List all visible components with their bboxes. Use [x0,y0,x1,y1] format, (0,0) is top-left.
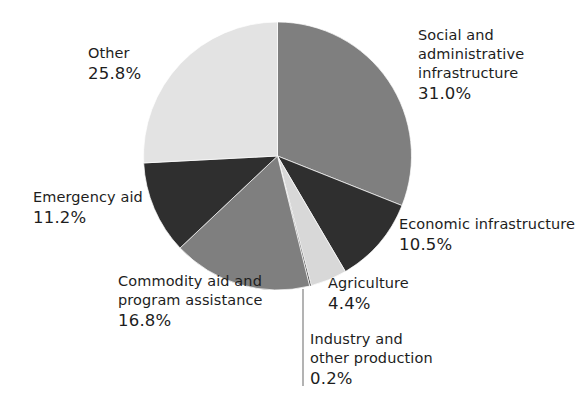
slice-label-text-line1: Emergency aid [33,188,143,207]
slice-value-commodity: 16.8% [118,311,263,330]
slice-label-text-line1: Commodity aid and [118,272,263,291]
slice-value-agriculture: 4.4% [328,294,409,313]
pie-slices-group [143,22,411,290]
slice-label-emergency-aid: Emergency aid 11.2% [33,188,143,227]
slice-value-other: 25.8% [88,64,141,83]
slice-label-industry-and-other-production: Industry and other production 0.2% [310,330,433,388]
slice-label-text-line1: Other [88,44,141,63]
slice-label-agriculture: Agriculture 4.4% [328,274,409,313]
slice-value-economic: 10.5% [399,235,575,254]
slice-label-commodity-aid-and-program-assistance: Commodity aid and program assistance 16.… [118,272,263,330]
slice-label-other: Other 25.8% [88,44,141,83]
slice-label-text-line2: other production [310,349,433,368]
slice-label-text-line1: Agriculture [328,274,409,293]
slice-label-social-and-administrative-infrastructure: Social and administrative infrastructure… [418,26,524,103]
pie-chart-figure: Social and administrative infrastructure… [0,0,581,417]
slice-value-industry: 0.2% [310,369,433,388]
pie-slice-other [143,22,277,163]
slice-value-emergency: 11.2% [33,208,143,227]
slice-label-text-line1: Economic infrastructure [399,215,575,234]
slice-label-text-line2: administrative [418,45,524,64]
slice-label-text-line1: Industry and [310,330,433,349]
slice-label-text-line3: infrastructure [418,64,524,83]
slice-value-social: 31.0% [418,84,524,103]
slice-label-text-line1: Social and [418,26,524,45]
slice-label-text-line2: program assistance [118,291,263,310]
slice-label-economic-infrastructure: Economic infrastructure 10.5% [399,215,575,254]
